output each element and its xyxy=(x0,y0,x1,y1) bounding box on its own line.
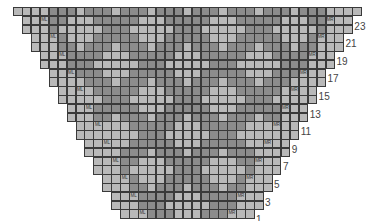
row-number-label: 9 xyxy=(292,145,298,155)
marker-left: ML xyxy=(93,121,102,129)
marker-right: MR xyxy=(227,209,236,217)
marker-left: ML xyxy=(58,51,67,59)
chart-cell-light xyxy=(281,148,291,157)
chart-cell-light xyxy=(263,183,273,192)
row-number-label: 21 xyxy=(345,39,356,49)
marker-right: MR xyxy=(326,16,335,24)
marker-right: MR xyxy=(290,86,299,94)
row-number-label: 17 xyxy=(328,74,339,84)
chart-cell-light xyxy=(343,25,353,34)
chart-cell-light xyxy=(334,42,344,51)
knitting-chart: MLMR23MLMR21MLMR19MLMR17MLMR15MLMR13MLMR… xyxy=(0,0,372,221)
chart-cell-light xyxy=(245,209,255,218)
marker-left: ML xyxy=(138,209,147,217)
marker-left: ML xyxy=(111,157,120,165)
chart-cell-light xyxy=(290,130,300,139)
row-number-label: 15 xyxy=(319,92,330,102)
marker-left: ML xyxy=(76,86,85,94)
chart-cell-light xyxy=(308,95,318,104)
marker-left: ML xyxy=(49,33,58,41)
marker-right: MR xyxy=(272,121,281,129)
marker-right: MR xyxy=(317,33,326,41)
row-number-label: 3 xyxy=(265,198,271,208)
chart-cell-light xyxy=(272,165,282,174)
row-number-label: 13 xyxy=(310,110,321,120)
marker-right: MR xyxy=(263,139,272,147)
chart-cell-light xyxy=(254,201,264,210)
chart-cell-light xyxy=(352,7,362,16)
marker-right: MR xyxy=(281,104,290,112)
row-number-label: 11 xyxy=(301,127,311,137)
marker-left: ML xyxy=(67,69,76,77)
marker-right: MR xyxy=(236,192,245,200)
chart-cell-light xyxy=(299,113,309,122)
marker-right: MR xyxy=(254,157,263,165)
row-number-label: 5 xyxy=(274,180,280,190)
marker-left: ML xyxy=(120,174,129,182)
row-number-label: 19 xyxy=(336,57,347,67)
row-number-label: 7 xyxy=(283,162,289,172)
marker-left: ML xyxy=(102,139,111,147)
marker-left: ML xyxy=(40,16,49,24)
row-number-label: 1 xyxy=(256,215,262,221)
marker-right: MR xyxy=(308,51,317,59)
marker-right: MR xyxy=(245,174,254,182)
marker-left: ML xyxy=(129,192,138,200)
chart-cell-light xyxy=(317,77,327,86)
row-number-label: 23 xyxy=(354,22,365,32)
marker-left: ML xyxy=(84,104,93,112)
marker-right: MR xyxy=(299,69,308,77)
chart-cell-light xyxy=(326,60,336,69)
